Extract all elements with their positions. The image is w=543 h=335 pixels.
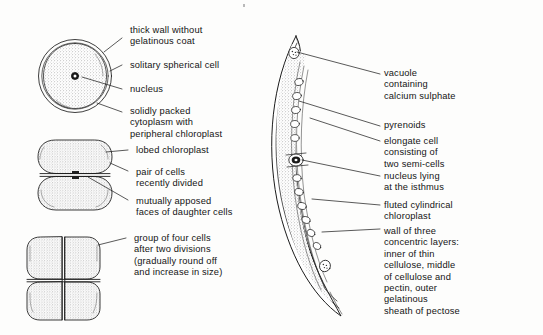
single-spherical-cell	[39, 40, 112, 113]
label-nucleus-isthmus: nucleus lying at the isthmus	[384, 171, 444, 194]
label-pair-of-cells: pair of cells recently divided	[136, 167, 203, 190]
label-wall-layers: wall of three concentric layers: inner o…	[384, 226, 460, 317]
label-pyrenoids: pyrenoids	[384, 120, 426, 131]
figure-canvas: thick wall without gelatinous coat solit…	[0, 0, 543, 335]
crescent-closterium-cell	[265, 35, 350, 316]
label-solitary-cell: solitary spherical cell	[130, 60, 219, 71]
leader-lines-cell-four	[98, 238, 126, 245]
two-celled-stage	[38, 140, 112, 210]
label-cytoplasm: solidly packed cytoplasm with peripheral…	[130, 106, 222, 140]
label-elongate-cell: elongate cell consisting of two semi-cel…	[384, 136, 444, 170]
label-lobed-chloroplast: lobed chloroplast	[136, 145, 209, 156]
label-fluted-chloroplast: fluted cylindrical chloroplast	[384, 200, 453, 223]
four-celled-stage	[27, 237, 100, 320]
label-nucleus: nucleus	[130, 84, 163, 95]
label-four-cells: group of four cells after two divisions …	[134, 233, 222, 279]
label-vacuole: vacuole containing calcium sulphate	[384, 68, 456, 102]
page-speck	[243, 4, 245, 7]
illustration-svg	[0, 0, 543, 335]
leader-lines-crescent	[297, 52, 380, 232]
label-apposed-faces: mutually apposed faces of daughter cells	[136, 196, 232, 219]
label-thick-wall: thick wall without gelatinous coat	[130, 25, 202, 48]
